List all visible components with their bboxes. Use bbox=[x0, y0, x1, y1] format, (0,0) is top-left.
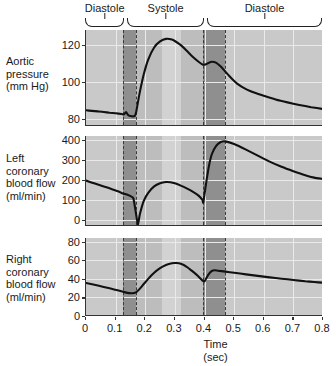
x-tick-label: 0.1 bbox=[107, 322, 122, 334]
y-tick-label: 200 bbox=[62, 174, 80, 186]
x-tick-label: 0.4 bbox=[196, 322, 211, 334]
x-axis-title: Time bbox=[203, 338, 227, 350]
y-tick-mark bbox=[82, 297, 85, 298]
y-axis-label-line: Left bbox=[6, 152, 56, 165]
y-tick-mark bbox=[82, 119, 85, 120]
y-axis-label-line: (ml/min) bbox=[6, 190, 56, 203]
y-tick-label: 0 bbox=[74, 310, 80, 322]
plot-area-aortic-pressure bbox=[85, 30, 322, 126]
y-tick-mark bbox=[82, 260, 85, 261]
y-axis-label-line: pressure bbox=[6, 68, 49, 81]
y-axis-label-line: Aortic bbox=[6, 55, 49, 68]
y-axis-label-right-coronary-blood-flow: Rightcoronaryblood flow(ml/min) bbox=[6, 253, 56, 303]
y-tick-mark bbox=[82, 140, 85, 141]
x-tick-mark bbox=[144, 317, 145, 320]
phase-bracket-systole-1 bbox=[127, 18, 204, 27]
x-tick-mark bbox=[85, 317, 86, 320]
y-tick-label: 80 bbox=[68, 113, 80, 125]
y-tick-mark bbox=[82, 160, 85, 161]
y-axis-label-line: Right bbox=[6, 253, 56, 266]
panel-right-coronary-blood-flow: 020406080Rightcoronaryblood flow(ml/min)… bbox=[0, 238, 336, 342]
y-axis-label-line: blood flow bbox=[6, 177, 56, 190]
y-tick-label: 100 bbox=[62, 194, 80, 206]
y-tick-label: 100 bbox=[62, 76, 80, 88]
y-axis-label-line: coronary bbox=[6, 165, 56, 178]
y-tick-label: 120 bbox=[62, 39, 80, 51]
x-tick-mark bbox=[292, 317, 293, 320]
y-tick-mark bbox=[82, 200, 85, 201]
phase-bracket-label: Diastole bbox=[85, 2, 125, 14]
coronary-blood-flow-figure: DiastoleSystoleDiastole 80100120Aorticpr… bbox=[0, 0, 336, 366]
y-axis-label-line: (mm Hg) bbox=[6, 80, 49, 93]
y-tick-label: 400 bbox=[62, 134, 80, 146]
y-tick-label: 20 bbox=[68, 291, 80, 303]
y-tick-mark bbox=[82, 242, 85, 243]
plot-area-right-coronary-blood-flow bbox=[85, 238, 322, 316]
x-tick-mark bbox=[263, 317, 264, 320]
phase-bracket-label: Systole bbox=[148, 2, 184, 14]
y-tick-mark bbox=[82, 45, 85, 46]
y-tick-mark bbox=[82, 82, 85, 83]
x-tick-label: 0.3 bbox=[166, 322, 181, 334]
y-axis-label-line: (ml/min) bbox=[6, 291, 56, 304]
cardiac-phase-brackets: DiastoleSystoleDiastole bbox=[0, 0, 336, 30]
y-tick-mark bbox=[82, 220, 85, 221]
y-tick-label: 300 bbox=[62, 154, 80, 166]
x-tick-mark bbox=[322, 317, 323, 320]
x-tick-label: 0.7 bbox=[285, 322, 300, 334]
plot-area-left-coronary-blood-flow bbox=[85, 136, 322, 226]
curve-right-coronary-blood-flow bbox=[86, 238, 322, 316]
panel-left-coronary-blood-flow: 0100200300400Leftcoronaryblood flow(ml/m… bbox=[0, 136, 336, 252]
y-tick-label: 0 bbox=[74, 214, 80, 226]
x-tick-label: 0.2 bbox=[137, 322, 152, 334]
phase-bracket-label: Diastole bbox=[245, 2, 285, 14]
phase-bracket-diastole-2 bbox=[207, 18, 322, 27]
y-axis-label-line: blood flow bbox=[6, 278, 56, 291]
y-axis-label-left-coronary-blood-flow: Leftcoronaryblood flow(ml/min) bbox=[6, 152, 56, 202]
x-tick-label: 0.6 bbox=[255, 322, 270, 334]
curve-aortic-pressure bbox=[86, 30, 322, 126]
curve-left-coronary-blood-flow bbox=[86, 136, 322, 226]
x-axis-units: (sec) bbox=[203, 351, 227, 363]
x-tick-mark bbox=[233, 317, 234, 320]
x-tick-mark bbox=[115, 317, 116, 320]
x-tick-mark bbox=[174, 317, 175, 320]
y-tick-mark bbox=[82, 180, 85, 181]
y-tick-mark bbox=[82, 279, 85, 280]
panel-aortic-pressure: 80100120Aorticpressure(mm Hg) bbox=[0, 30, 336, 152]
x-tick-mark bbox=[204, 317, 205, 320]
y-tick-label: 40 bbox=[68, 273, 80, 285]
y-tick-label: 60 bbox=[68, 254, 80, 266]
y-tick-label: 80 bbox=[68, 236, 80, 248]
x-tick-label: 0.8 bbox=[314, 322, 329, 334]
x-tick-label: 0 bbox=[82, 322, 88, 334]
y-axis-label-aortic-pressure: Aorticpressure(mm Hg) bbox=[6, 55, 49, 93]
phase-bracket-diastole-0 bbox=[85, 18, 124, 27]
x-tick-label: 0.5 bbox=[225, 322, 240, 334]
y-axis-label-line: coronary bbox=[6, 266, 56, 279]
